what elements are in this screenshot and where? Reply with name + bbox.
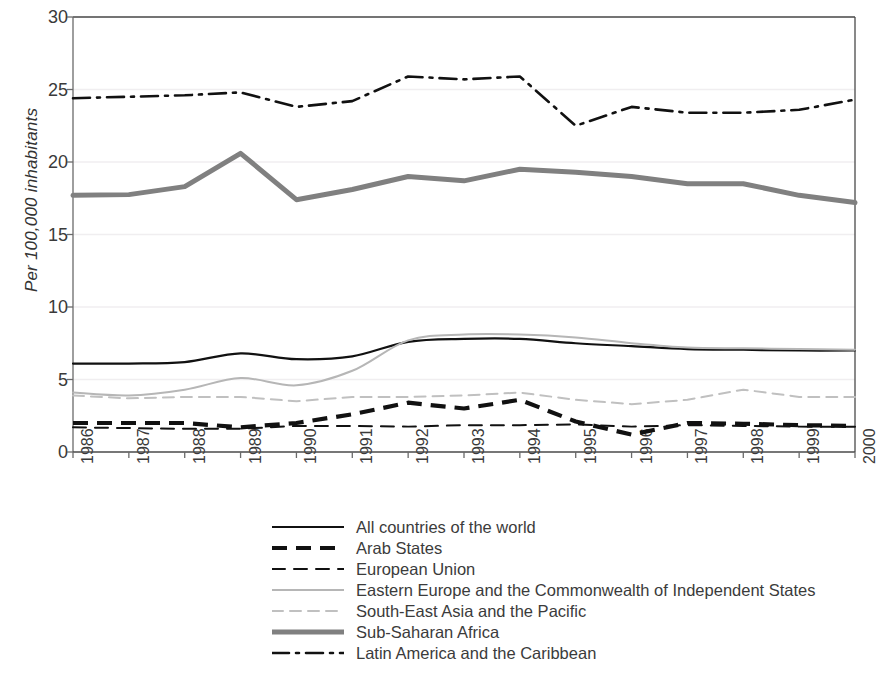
legend-label: South-East Asia and the Pacific bbox=[356, 601, 586, 621]
legend-key-swatch bbox=[272, 601, 344, 621]
legend-key-swatch bbox=[272, 517, 344, 537]
series-line bbox=[73, 390, 855, 405]
legend-label: Arab States bbox=[356, 538, 442, 558]
legend-key-swatch bbox=[272, 559, 344, 579]
legend-item[interactable]: All countries of the world bbox=[272, 516, 872, 537]
legend-key-swatch bbox=[272, 622, 344, 642]
series-line bbox=[73, 424, 855, 428]
legend-key-swatch bbox=[272, 580, 344, 600]
series-line bbox=[73, 153, 855, 202]
legend-item[interactable]: Eastern Europe and the Commonwealth of I… bbox=[272, 579, 872, 600]
legend-item[interactable]: European Union bbox=[272, 558, 872, 579]
legend-item[interactable]: South-East Asia and the Pacific bbox=[272, 600, 872, 621]
legend-key-swatch bbox=[272, 643, 344, 663]
legend-label: Eastern Europe and the Commonwealth of I… bbox=[356, 580, 816, 600]
legend-item[interactable]: Arab States bbox=[272, 537, 872, 558]
chart-legend: All countries of the worldArab StatesEur… bbox=[272, 516, 872, 663]
legend-item[interactable]: Sub-Saharan Africa bbox=[272, 621, 872, 642]
series-line bbox=[73, 76, 855, 125]
legend-label: Latin America and the Caribbean bbox=[356, 643, 596, 663]
series-line bbox=[73, 334, 855, 396]
legend-key-swatch bbox=[272, 538, 344, 558]
legend-label: European Union bbox=[356, 559, 475, 579]
legend-label: Sub-Saharan Africa bbox=[356, 622, 499, 642]
legend-label: All countries of the world bbox=[356, 517, 536, 537]
series-line bbox=[73, 338, 855, 363]
legend-item[interactable]: Latin America and the Caribbean bbox=[272, 642, 872, 663]
